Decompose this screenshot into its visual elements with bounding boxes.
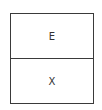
cell-label-bottom: X: [49, 76, 56, 87]
cell-label-top: E: [49, 31, 55, 42]
divider: [11, 58, 93, 59]
cell-bottom: X: [11, 60, 93, 103]
stack-box: E X: [10, 13, 94, 104]
cell-top: E: [11, 14, 93, 58]
